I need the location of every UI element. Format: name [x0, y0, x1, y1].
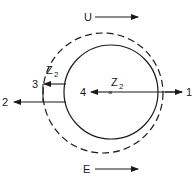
label-z2-outer: Z	[46, 64, 53, 76]
label-z2-center-sub: 2	[119, 82, 124, 91]
label-1: 1	[186, 86, 192, 98]
label-2: 2	[2, 96, 8, 108]
label-z2-center: Z	[111, 76, 118, 88]
outer-dashed-circle	[43, 33, 163, 153]
diagram-canvas: U E Z 2 Z 2 × 1 4 3 2	[0, 0, 196, 183]
label-4: 4	[80, 86, 86, 98]
label-u: U	[84, 11, 92, 23]
diagram-svg: U E Z 2 Z 2 × 1 4 3 2	[0, 0, 196, 183]
label-e: E	[83, 163, 90, 175]
label-z2-outer-sub: 2	[54, 70, 59, 79]
label-3: 3	[32, 78, 38, 90]
